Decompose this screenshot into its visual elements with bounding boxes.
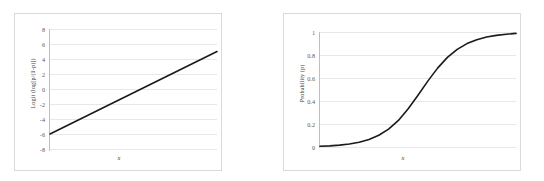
x-axis-label-probability: x (284, 154, 522, 161)
x-axis-label-logit: x (15, 154, 223, 161)
chart-panel-logit: Logit (log[p/(1-p)]) 8 6 4 2 0 -2 -4 -6 … (14, 13, 222, 171)
probability-sigmoid-series (284, 14, 522, 172)
chart-panel-probability: Probability (p) 1 0.8 0.6 0.4 0.2 0 x (283, 13, 521, 171)
figure-container: Logit (log[p/(1-p)]) 8 6 4 2 0 -2 -4 -6 … (0, 0, 544, 181)
logit-line-series (15, 14, 223, 172)
